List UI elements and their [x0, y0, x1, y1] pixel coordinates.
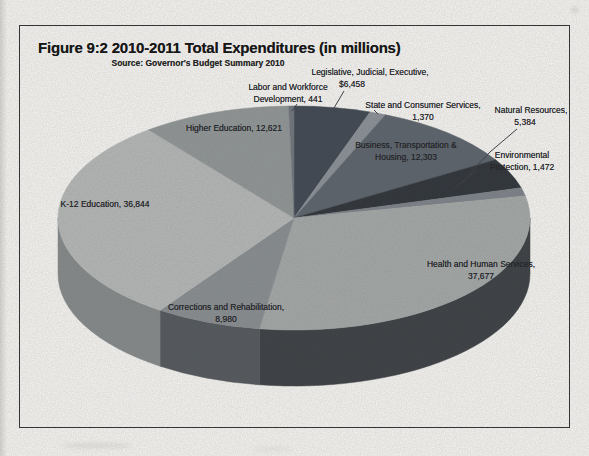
- scan-grain-overlay: [0, 0, 589, 456]
- scanned-page: Figure 9:2 2010-2011 Total Expenditures …: [0, 0, 589, 456]
- pie-chart: [0, 0, 589, 456]
